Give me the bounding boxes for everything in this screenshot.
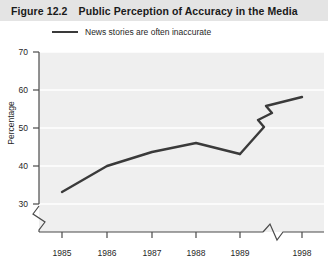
chart-plot-svg bbox=[0, 0, 328, 269]
y-axis-ticks bbox=[33, 52, 39, 204]
line-chart: Percentage 70 60 50 40 30 1985 1986 1987… bbox=[0, 0, 328, 269]
x-axis-ticks bbox=[62, 232, 302, 238]
plot-background bbox=[39, 52, 324, 232]
